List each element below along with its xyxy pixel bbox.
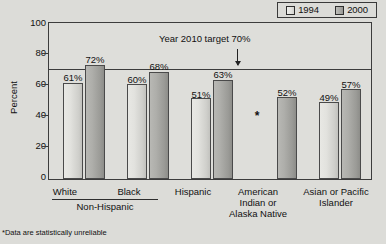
category-label-asian-pacific-line2: Islander [288,197,384,209]
bar-value-hispanic-2000: 63% [203,70,243,80]
y-tick-label-100: 100 [6,18,46,28]
non-hispanic-bracket [52,199,158,200]
bar-value-white-1994: 61% [53,73,93,83]
bar-hispanic-1994 [191,98,211,179]
bar-value-hispanic-1994: 51% [181,90,221,100]
legend-entry-2000: 2000 [335,5,368,15]
plot-area: 61% 72% 60% 68% 51% 63% * 52% 49% 57% Ye… [48,22,372,180]
bar-value-black-1994: 60% [117,75,157,85]
y-tick-label-60: 60 [6,79,46,89]
bar-value-american-indian-2000: 52% [267,88,307,98]
y-tick-label-20: 20 [6,141,46,151]
bar-white-1994 [63,83,83,179]
legend-swatch-2000-icon [335,6,344,15]
legend-entry-1994: 1994 [286,5,319,15]
target-arrow-icon [237,49,238,65]
target-annotation-label: Year 2010 target 70% [159,34,251,44]
legend-label-1994: 1994 [298,5,319,15]
chart-footnote: *Data are statistically unreliable [2,228,107,237]
y-tick-label-80: 80 [6,48,46,58]
bar-black-2000 [149,72,169,179]
bar-asian-pacific-1994 [319,102,339,179]
y-tick-label-0: 0 [6,172,46,182]
bar-value-white-2000: 72% [75,55,115,65]
bar-value-asian-pacific-2000: 57% [331,80,371,90]
y-tick-label-40: 40 [6,110,46,120]
chart-legend: 1994 2000 [277,2,377,18]
category-label-american-indian-line3: Alaska Native [216,208,300,220]
bar-value-american-indian-1994-asterisk: * [247,111,267,121]
bar-chart: 1994 2000 Percent 100 80 60 40 20 0 61% … [0,0,386,244]
bar-value-black-2000: 68% [139,62,179,72]
legend-label-2000: 2000 [347,5,368,15]
bar-value-asian-pacific-1994: 49% [309,93,349,103]
category-label-asian-pacific-line1: Asian or Pacific [288,186,384,198]
bar-american-indian-2000 [277,97,297,179]
bar-black-1994 [127,84,147,179]
non-hispanic-bracket-label: Non-Hispanic [52,201,158,212]
legend-swatch-1994-icon [286,6,295,15]
